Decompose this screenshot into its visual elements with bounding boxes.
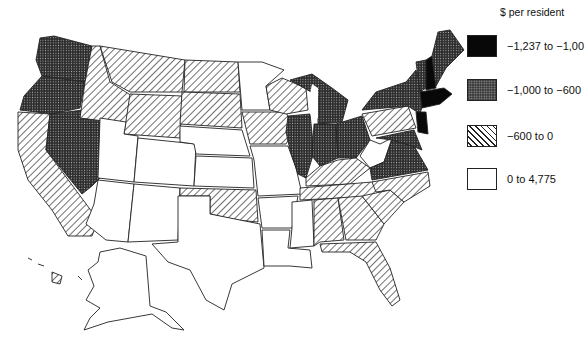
state-or xyxy=(20,76,85,114)
legend-item-white: 0 to 4,775 xyxy=(467,168,588,194)
state-me xyxy=(432,30,464,86)
state-fl xyxy=(320,242,400,306)
legend-label: 0 to 4,775 xyxy=(507,173,556,185)
legend-swatch-solid-black xyxy=(467,35,497,57)
legend-label: −1,237 to −1,00 xyxy=(507,40,584,52)
state-nm xyxy=(128,184,180,242)
state-ma-ct xyxy=(420,88,452,108)
legend-item-dark: −1,237 to −1,00 xyxy=(467,35,588,61)
legend-label: −1,000 to −600 xyxy=(507,84,581,96)
state-co xyxy=(134,138,196,186)
state-ks xyxy=(194,156,254,188)
state-sd xyxy=(180,92,242,128)
state-nj xyxy=(416,112,428,134)
legend-swatch-stipple xyxy=(467,79,497,101)
state-ms xyxy=(290,200,314,248)
legend-label: −600 to 0 xyxy=(507,130,553,142)
legend-title: $ per resident xyxy=(500,6,564,18)
legend-swatch-white xyxy=(467,168,497,190)
state-hi-big xyxy=(52,272,62,284)
state-ky xyxy=(306,158,370,186)
state-wa xyxy=(36,36,92,82)
state-in xyxy=(312,124,338,166)
legend-item-stipple: −1,000 to −600 xyxy=(467,79,588,105)
state-nd xyxy=(184,60,240,92)
legend-swatch-hatch xyxy=(467,125,497,147)
state-ny xyxy=(362,70,424,114)
legend-item-hatch: −600 to 0 xyxy=(467,125,588,151)
state-wy xyxy=(124,94,182,138)
